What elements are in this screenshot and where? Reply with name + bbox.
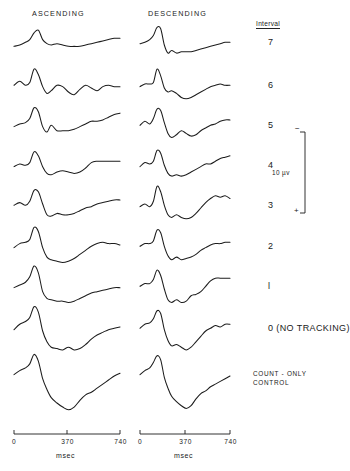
calibration-bar (300, 132, 305, 213)
row-label-6: 2 (268, 241, 273, 251)
row-label-9: COUNT - ONLYCONTROL (253, 370, 307, 387)
waveform-trace (14, 107, 120, 132)
x-axis-label-descending: msec (174, 452, 193, 459)
waveform-trace (14, 69, 120, 95)
row-label-8: 0 (NO TRACKING) (268, 323, 350, 333)
waveform-trace (140, 356, 230, 409)
waveform-trace (14, 30, 120, 47)
waveform-trace (140, 108, 230, 137)
row-label-3: 5 (268, 120, 273, 130)
waveform-trace (140, 69, 230, 99)
calibration-positive-sign: + (294, 206, 299, 215)
calibration-negative-sign: − (295, 124, 300, 133)
waveform-trace (140, 27, 230, 54)
waveform-trace (14, 307, 120, 350)
waveform-trace (14, 227, 120, 263)
waveform-trace (14, 152, 120, 175)
x-axis-tick-label: 740 (114, 438, 127, 445)
waveform-trace (14, 354, 120, 409)
column-header-ascending: ASCENDING (32, 9, 85, 18)
column-header-descending: DESCENDING (148, 9, 207, 18)
x-axis-label-ascending: msec (56, 452, 75, 459)
row-label-7: l (268, 281, 270, 291)
waveform-trace (14, 190, 120, 217)
interval-column-header: Interval (256, 20, 280, 29)
waveform-trace (140, 310, 230, 350)
row-label-5: 3 (268, 200, 273, 210)
waveform-trace (140, 150, 230, 176)
x-axis-tick-label: 370 (179, 438, 192, 445)
x-axis-tick-label: 0 (12, 438, 16, 445)
x-axis-tick-label: 740 (224, 438, 237, 445)
waveform-trace (140, 186, 230, 219)
waveform-trace (140, 230, 230, 260)
waveform-trace (140, 270, 230, 303)
waveform-trace (14, 266, 120, 303)
calibration-label: 10 µv (272, 169, 290, 176)
x-axis-tick-label: 370 (61, 438, 74, 445)
x-axis-tick-label: 0 (138, 438, 142, 445)
row-label-2: 6 (268, 80, 273, 90)
row-label-1: 7 (268, 37, 273, 47)
